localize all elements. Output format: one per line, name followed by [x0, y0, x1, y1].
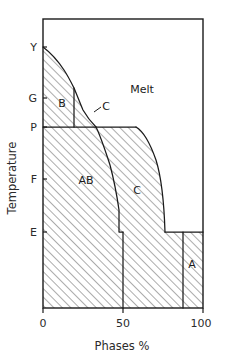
- y-axis-title: Temperature: [5, 142, 19, 216]
- region-label-A: A: [188, 258, 196, 271]
- x-tick-label-0: 0: [40, 317, 47, 330]
- region-C-lower-fill: [123, 232, 183, 308]
- region-label-Melt: Melt: [130, 83, 154, 96]
- phase-diagram-figure: Y G P F E 0 50 100 Phases % Temperature …: [0, 0, 226, 364]
- region-label-AB: AB: [78, 174, 93, 187]
- y-tick-label-E: E: [30, 226, 37, 239]
- region-label-C-top: C: [102, 100, 110, 113]
- x-tick-label-50: 50: [116, 317, 130, 330]
- x-tick-label-100: 100: [191, 317, 212, 330]
- y-tick-label-G: G: [28, 92, 37, 105]
- region-label-C-mid: C: [133, 184, 141, 197]
- y-tick-label-F: F: [31, 173, 37, 186]
- x-axis-title: Phases %: [95, 339, 150, 353]
- region-label-B: B: [58, 97, 66, 110]
- phase-diagram-svg: Y G P F E 0 50 100 Phases % Temperature …: [0, 0, 226, 364]
- y-tick-label-P: P: [30, 121, 37, 134]
- y-tick-label-Y: Y: [29, 41, 37, 54]
